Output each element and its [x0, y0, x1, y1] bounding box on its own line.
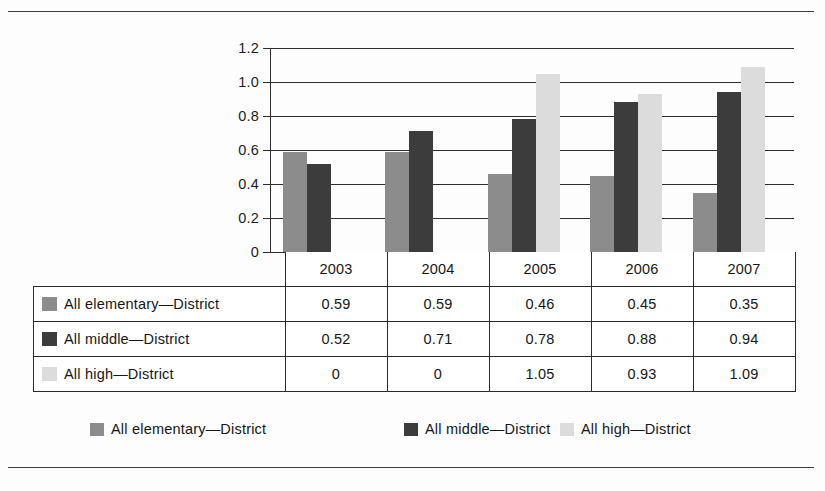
y-tick-mark — [263, 218, 270, 219]
chart-legend: All elementary—DistrictAll middle—Distri… — [33, 421, 782, 443]
table-column-header-2007: 2007 — [693, 252, 795, 287]
bar-2004-series-0 — [385, 152, 409, 252]
table-header-row: 20032004200520062007 — [34, 252, 796, 287]
y-tick-right — [782, 184, 794, 185]
bar-2007-series-1 — [717, 92, 741, 252]
legend-label: All high—District — [581, 421, 691, 437]
bar-group-2004 — [372, 48, 474, 252]
bar-2005-series-2 — [536, 74, 560, 253]
table-cell: 0.35 — [693, 287, 795, 322]
table-column-header-2006: 2006 — [591, 252, 693, 287]
bar-2005-series-1 — [512, 119, 536, 252]
bar-2006-series-0 — [590, 176, 614, 253]
table-row: All high—District001.050.931.09 — [34, 357, 796, 392]
bar-group-2003 — [270, 48, 372, 252]
bar-group-2005 — [475, 48, 577, 252]
bar-2003-series-1 — [307, 164, 331, 252]
table-column-header-2004: 2004 — [387, 252, 489, 287]
table-row-label-text: All middle—District — [64, 331, 189, 347]
legend-key-swatch-icon — [42, 297, 57, 311]
table-row-label: All high—District — [34, 357, 286, 392]
y-tick-right — [782, 48, 794, 49]
table-column-header-2005: 2005 — [489, 252, 591, 287]
table-cell: 0.46 — [489, 287, 591, 322]
y-tick-mark — [263, 116, 270, 117]
legend-label: All middle—District — [425, 421, 550, 437]
y-tick-right — [782, 218, 794, 219]
table-row: All elementary—District0.590.590.460.450… — [34, 287, 796, 322]
page-rule-top — [8, 11, 814, 12]
y-tick-mark — [263, 48, 270, 49]
table-cell: 0.59 — [285, 287, 387, 322]
table-cell: 1.09 — [693, 357, 795, 392]
table-cell: 0.52 — [285, 322, 387, 357]
legend-swatch-icon — [90, 423, 104, 436]
y-tick-right — [782, 82, 794, 83]
legend-swatch-icon — [404, 423, 418, 436]
table-corner-cell — [34, 252, 286, 287]
y-tick-right — [782, 116, 794, 117]
table-row-label: All middle—District — [34, 322, 286, 357]
legend-item: All high—District — [560, 421, 691, 437]
y-axis-tick-label: 0.8 — [238, 108, 259, 124]
bar-2003-series-0 — [283, 152, 307, 252]
table-row-label-text: All high—District — [64, 366, 174, 382]
table-cell: 0.78 — [489, 322, 591, 357]
table-column-header-2003: 2003 — [285, 252, 387, 287]
table-row: All middle—District0.520.710.780.880.94 — [34, 322, 796, 357]
legend-key-swatch-icon — [42, 367, 57, 381]
y-axis-tick-label: 0.6 — [238, 142, 259, 158]
legend-item: All middle—District — [404, 421, 550, 437]
chart-plot-area: 00.20.40.60.81.01.2 — [270, 48, 782, 252]
table-cell: 0.94 — [693, 322, 795, 357]
bar-group-2006 — [577, 48, 679, 252]
table-cell: 0.71 — [387, 322, 489, 357]
legend-swatch-icon — [560, 423, 574, 436]
chart-data-table: 20032004200520062007All elementary—Distr… — [33, 252, 796, 392]
y-tick-mark — [263, 82, 270, 83]
table-cell: 1.05 — [489, 357, 591, 392]
table-cell: 0.88 — [591, 322, 693, 357]
legend-item: All elementary—District — [90, 421, 266, 437]
bar-2007-series-0 — [693, 193, 717, 253]
y-tick-mark — [263, 150, 270, 151]
table-row-label: All elementary—District — [34, 287, 286, 322]
y-tick-mark — [263, 184, 270, 185]
bar-group-2007 — [680, 48, 782, 252]
figure-page: 00.20.40.60.81.01.2 20032004200520062007… — [0, 0, 825, 491]
bar-2005-series-0 — [488, 174, 512, 252]
y-axis-tick-label: 0.2 — [238, 210, 259, 226]
legend-key-swatch-icon — [42, 332, 57, 346]
table-cell: 0 — [285, 357, 387, 392]
y-axis-tick-label: 1.0 — [238, 74, 259, 90]
bar-2007-series-2 — [741, 67, 765, 252]
table-cell: 0.59 — [387, 287, 489, 322]
y-axis-tick-label: 0.4 — [238, 176, 259, 192]
legend-label: All elementary—District — [111, 421, 266, 437]
bar-2006-series-1 — [614, 102, 638, 252]
y-axis-tick-label: 1.2 — [238, 40, 259, 56]
page-rule-bottom — [8, 467, 814, 468]
table-row-label-text: All elementary—District — [64, 296, 219, 312]
table-cell: 0.93 — [591, 357, 693, 392]
table-cell: 0.45 — [591, 287, 693, 322]
bar-2006-series-2 — [638, 94, 662, 252]
y-tick-right — [782, 150, 794, 151]
bar-2004-series-1 — [409, 131, 433, 252]
table-cell: 0 — [387, 357, 489, 392]
